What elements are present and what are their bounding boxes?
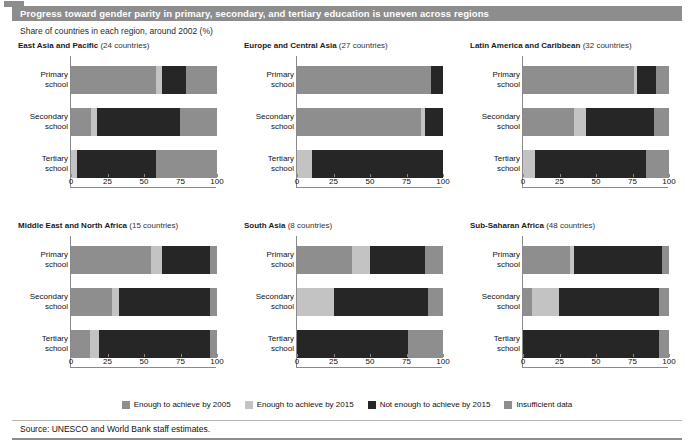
- bar-segment-insuf: [656, 66, 669, 94]
- bar-segment-2015: [297, 288, 334, 316]
- bar-segment-2005: [523, 246, 570, 274]
- category-label: Primaryschool: [18, 250, 68, 269]
- legend-item: Enough to achieve by 2005: [122, 400, 231, 409]
- x-axis-line: [522, 187, 668, 188]
- legend-label: Enough to achieve by 2005: [134, 400, 231, 409]
- source-note: Source: UNESCO and World Bank staff esti…: [20, 424, 210, 434]
- axis-tick-label: 0: [69, 357, 73, 366]
- panel-row: Middle East and North Africa (15 countri…: [0, 220, 694, 368]
- category-labels: PrimaryschoolSecondaryschoolTertiaryscho…: [18, 56, 68, 188]
- category-labels: PrimaryschoolSecondaryschoolTertiaryscho…: [244, 236, 294, 368]
- axis-tick-label: 75: [176, 177, 185, 186]
- axis-area: [522, 236, 694, 368]
- legend-label: Not enough to achieve by 2015: [380, 400, 491, 409]
- bar-segment-2015: [532, 288, 560, 316]
- category-label: Primaryschool: [470, 250, 520, 269]
- chart-legend: Enough to achieve by 2005Enough to achie…: [0, 400, 694, 409]
- x-axis-ticks: 0255075100: [70, 174, 217, 186]
- axis-area: [296, 236, 468, 368]
- category-label: Tertiaryschool: [18, 334, 68, 353]
- bar-segment-2005: [71, 66, 156, 94]
- panel-title: Latin America and Caribbean (32 countrie…: [470, 40, 694, 51]
- plot-area: PrimaryschoolSecondaryschoolTertiaryscho…: [244, 56, 468, 188]
- axis-tick-label: 100: [210, 357, 223, 366]
- category-labels: PrimaryschoolSecondaryschoolTertiaryscho…: [470, 56, 520, 188]
- plot-area: PrimaryschoolSecondaryschoolTertiaryscho…: [470, 236, 694, 368]
- category-label: Secondaryschool: [470, 292, 520, 311]
- legend-item: Not enough to achieve by 2015: [368, 400, 491, 409]
- bar-segment-not: [425, 108, 443, 136]
- axis-tick-label: 75: [402, 357, 411, 366]
- bar-segment-not: [97, 108, 180, 136]
- plot-area: PrimaryschoolSecondaryschoolTertiaryscho…: [18, 56, 242, 188]
- axis-tick-label: 50: [592, 357, 601, 366]
- axis-tick-label: 100: [436, 357, 449, 366]
- bar-segment-not: [162, 246, 210, 274]
- axis-tick-label: 75: [628, 177, 637, 186]
- category-label: Secondaryschool: [244, 292, 294, 311]
- chart-panel-east-asia-and-pacific: East Asia and Pacific (24 countries)Prim…: [18, 40, 242, 188]
- figure-subtitle: Share of countries in each region, aroun…: [20, 26, 213, 36]
- category-label: Tertiaryschool: [18, 154, 68, 173]
- bar-segment-2015: [151, 246, 161, 274]
- x-axis-ticks: 0255075100: [70, 354, 217, 366]
- bar-segment-not: [119, 288, 210, 316]
- category-label: Tertiaryschool: [244, 334, 294, 353]
- axis-tick-label: 100: [662, 357, 675, 366]
- row-spacer: [0, 188, 694, 220]
- axis-tick-label: 0: [521, 357, 525, 366]
- bar-segment-2015: [352, 246, 370, 274]
- axis-tick-label: 25: [103, 177, 112, 186]
- legend-swatch: [245, 401, 253, 409]
- bar-segment-not: [431, 66, 443, 94]
- legend-swatch: [368, 401, 376, 409]
- axis-tick-label: 50: [140, 357, 149, 366]
- axis-tick-label: 0: [295, 357, 299, 366]
- panel-region-name: Sub-Saharan Africa: [470, 221, 544, 230]
- legend-item: Insufficient data: [504, 400, 572, 409]
- axis-tick-label: 75: [402, 177, 411, 186]
- x-axis-line: [70, 367, 216, 368]
- bar-segment-insuf: [428, 288, 443, 316]
- axis-area: [296, 56, 468, 188]
- x-axis-line: [522, 367, 668, 368]
- bar-segment-2005: [71, 108, 91, 136]
- figure-title: Progress toward gender parity in primary…: [12, 8, 489, 19]
- bar-segment-2005: [297, 246, 352, 274]
- axis-tick-label: 100: [662, 177, 675, 186]
- panel-country-count: (15 countries): [127, 221, 178, 230]
- plot-area: PrimaryschoolSecondaryschoolTertiaryscho…: [18, 236, 242, 368]
- x-axis-ticks: 0255075100: [522, 174, 669, 186]
- axis-tick-label: 0: [69, 177, 73, 186]
- panel-row: East Asia and Pacific (24 countries)Prim…: [0, 40, 694, 188]
- bar-segment-not: [370, 246, 425, 274]
- stacked-bar: [297, 108, 443, 136]
- axis-area: [70, 236, 242, 368]
- category-label: Tertiaryschool: [244, 154, 294, 173]
- bar-segment-insuf: [186, 66, 217, 94]
- panel-title: East Asia and Pacific (24 countries): [18, 40, 242, 51]
- stacked-bar: [297, 66, 443, 94]
- category-label: Secondaryschool: [244, 112, 294, 131]
- stacked-bar: [297, 288, 443, 316]
- axis-tick-label: 50: [140, 177, 149, 186]
- stacked-bar: [523, 246, 669, 274]
- category-label: Tertiaryschool: [470, 154, 520, 173]
- category-label: Secondaryschool: [470, 112, 520, 131]
- stacked-bar: [71, 108, 217, 136]
- axis-tick-label: 100: [210, 177, 223, 186]
- plot-area: PrimaryschoolSecondaryschoolTertiaryscho…: [244, 236, 468, 368]
- bar-segment-insuf: [662, 246, 669, 274]
- panel-country-count: (8 countries): [285, 221, 332, 230]
- bar-segment-insuf: [210, 288, 217, 316]
- x-axis-line: [70, 187, 216, 188]
- bar-segment-2015: [112, 288, 119, 316]
- category-label: Secondaryschool: [18, 292, 68, 311]
- bar-segment-2005: [523, 288, 532, 316]
- stacked-bar: [523, 108, 669, 136]
- panel-region-name: Middle East and North Africa: [18, 221, 127, 230]
- plot-area: PrimaryschoolSecondaryschoolTertiaryscho…: [470, 56, 694, 188]
- chart-panel-latin-america-and-caribbean: Latin America and Caribbean (32 countrie…: [470, 40, 694, 188]
- category-label: Primaryschool: [244, 250, 294, 269]
- axis-tick-label: 25: [555, 177, 564, 186]
